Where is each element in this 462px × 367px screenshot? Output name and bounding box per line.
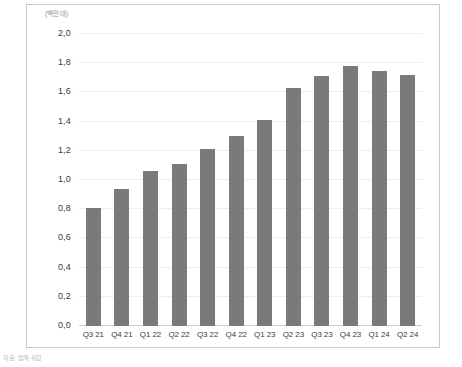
bar[interactable] [343,66,358,326]
bar[interactable] [314,76,329,326]
y-axis-tick-label: 0,8 [58,203,71,213]
bar-slot [308,34,337,326]
bar-slot [279,34,308,326]
bar[interactable] [229,136,244,326]
bar[interactable] [286,88,301,326]
x-axis-tick-label: Q2 22 [165,330,194,339]
y-axis-tick-label: 1,8 [58,57,71,67]
bar-slot [165,34,194,326]
bar-series [79,34,422,326]
bar[interactable] [114,189,129,326]
x-axis-tick-label: Q3 21 [79,330,108,339]
x-axis-tick-label: Q2 23 [279,330,308,339]
x-axis-tick-label: Q1 24 [365,330,394,339]
y-axis-tick-label: 1,0 [58,174,71,184]
bar-slot [365,34,394,326]
x-axis-tick-label: Q4 22 [222,330,251,339]
bar-slot [108,34,137,326]
x-axis-tick-label: Q2 24 [393,330,422,339]
x-axis-tick-label: Q3 23 [308,330,337,339]
bar[interactable] [257,120,272,326]
y-axis-tick-label: 1,6 [58,86,71,96]
bar[interactable] [372,71,387,327]
source-note: 자료: 업계 취합 [3,353,42,362]
x-axis-tick-label: Q1 22 [136,330,165,339]
chart-figure: (백만 대) 2,01,81,61,41,21,00,80,60,40,20,0… [26,4,440,348]
x-axis-tick-labels: Q3 21Q4 21Q1 22Q2 22Q3 22Q4 22Q1 23Q2 23… [79,330,422,339]
x-axis-tick-label: Q4 23 [336,330,365,339]
bar-slot [79,34,108,326]
y-axis-tick-label: 0,2 [58,291,71,301]
bar-slot [136,34,165,326]
y-axis-tick-label: 0,0 [58,320,71,330]
x-axis-tick-label: Q4 21 [108,330,137,339]
bar[interactable] [200,149,215,326]
bar[interactable] [143,171,158,326]
bar-slot [393,34,422,326]
y-axis-tick-label: 0,4 [58,262,71,272]
bar-slot [193,34,222,326]
y-axis-tick-label: 2,0 [58,28,71,38]
bar-slot [250,34,279,326]
x-axis-tick-label: Q3 22 [193,330,222,339]
y-axis-tick-label: 1,2 [58,145,71,155]
bar[interactable] [86,208,101,326]
bar[interactable] [400,75,415,326]
y-axis-tick-label: 0,6 [58,232,71,242]
bar-slot [222,34,251,326]
bar[interactable] [172,164,187,326]
y-axis-tick-label: 1,4 [58,116,71,126]
plot-area: 2,01,81,61,41,21,00,80,60,40,20,0 [79,34,422,326]
bar-slot [336,34,365,326]
x-axis-tick-label: Q1 23 [250,330,279,339]
y-axis-unit-label: (백만 대) [45,11,68,18]
